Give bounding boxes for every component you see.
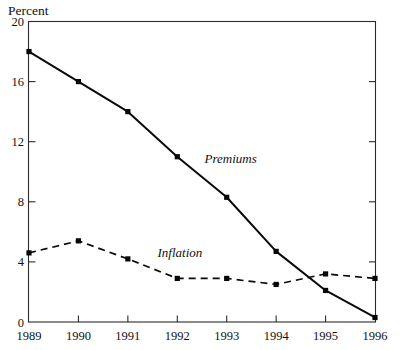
data-point-marker <box>224 276 229 281</box>
y-tick-label: 16 <box>12 75 25 89</box>
y-tick-label: 20 <box>12 15 25 29</box>
data-point-marker <box>175 276 180 281</box>
data-point-marker <box>372 276 377 281</box>
y-tick-label: 4 <box>18 255 25 269</box>
x-tick-label: 1996 <box>363 329 388 343</box>
data-point-marker <box>125 256 130 261</box>
y-tick-label: 0 <box>18 316 24 330</box>
data-point-marker <box>125 109 130 114</box>
x-tick-label: 1995 <box>313 329 338 343</box>
data-point-marker <box>372 315 377 320</box>
data-point-marker <box>76 238 81 243</box>
series-label-inflation: Inflation <box>157 245 203 260</box>
x-axis-tick-marks <box>78 316 325 323</box>
y-axis-tick-labels: 048121620 <box>12 15 25 330</box>
x-axis-tick-labels: 19891990199119921993199419951996 <box>17 329 388 343</box>
x-tick-label: 1993 <box>214 329 239 343</box>
x-tick-label: 1994 <box>264 329 290 343</box>
series-layer <box>26 49 377 320</box>
data-point-marker <box>323 288 328 293</box>
x-tick-label: 1992 <box>165 329 190 343</box>
x-tick-label: 1989 <box>17 329 42 343</box>
data-point-marker <box>323 271 328 276</box>
data-point-marker <box>224 195 229 200</box>
data-point-marker <box>76 79 81 84</box>
data-point-marker <box>26 49 31 54</box>
series-premiums <box>26 49 377 320</box>
data-point-marker <box>274 282 279 287</box>
data-point-marker <box>175 154 180 159</box>
data-point-marker <box>274 249 279 254</box>
series-label-premiums: Premiums <box>203 151 256 166</box>
y-axis-tick-marks <box>29 82 376 262</box>
y-tick-label: 8 <box>18 195 24 209</box>
y-tick-label: 12 <box>12 135 25 149</box>
x-tick-label: 1991 <box>115 329 140 343</box>
x-tick-label: 1990 <box>66 329 91 343</box>
plot-frame <box>29 22 376 323</box>
series-annotations: PremiumsInflation <box>157 151 257 260</box>
chart-canvas: Percent 048121620 1989199019911992199319… <box>0 0 403 350</box>
line-chart: Percent 048121620 1989199019911992199319… <box>0 0 403 350</box>
data-point-marker <box>26 250 31 255</box>
